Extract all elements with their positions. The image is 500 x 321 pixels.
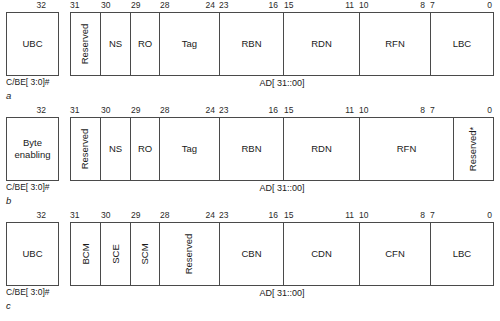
bitfield-rbn: RBN bbox=[220, 118, 284, 180]
cbe-signal-caption: C/BE[ 3:0]# bbox=[6, 77, 49, 88]
bit-tick: 31 bbox=[70, 0, 79, 11]
bitfield-label: RFN bbox=[397, 143, 417, 155]
bit-tick: 30 bbox=[101, 105, 110, 116]
bit-tick: 16 bbox=[269, 0, 278, 11]
cbe-byte-command-box: UBC bbox=[6, 222, 59, 286]
bit-tick-cbe-width: 32 bbox=[37, 105, 46, 116]
bitfield-label: Reserved bbox=[80, 24, 92, 65]
bitfield-label: CBN bbox=[241, 248, 261, 260]
bitfield-label: SCM bbox=[139, 243, 151, 264]
cbe-box-label: UBC bbox=[22, 38, 42, 50]
ad-bitfield-box: ReservedNSROTagRBNRDNRFNReserved* bbox=[70, 117, 494, 181]
pci-field-layout-diagram: 3231302928242316151110870UBCReservedNSRO… bbox=[0, 0, 500, 321]
bit-tick: 23 bbox=[219, 105, 228, 116]
bitfield-label: LBC bbox=[453, 248, 471, 260]
bitfield-label: RFN bbox=[385, 38, 405, 50]
ad-bitfield-box: BCMSCESCMReservedCBNCDNCFNLBC bbox=[70, 222, 494, 286]
bit-tick-cbe-width: 32 bbox=[37, 0, 46, 11]
bit-tick: 29 bbox=[131, 0, 140, 11]
bitfield-rfn: RFN bbox=[360, 13, 431, 75]
ad-signal-caption: AD[ 31::00] bbox=[70, 77, 494, 89]
bitfield-ns: NS bbox=[101, 118, 131, 180]
bitfield-rbn: RBN bbox=[220, 13, 284, 75]
bit-tick: 31 bbox=[70, 105, 79, 116]
field-layout-row-a: 3231302928242316151110870UBCReservedNSRO… bbox=[0, 0, 500, 107]
bit-tick: 7 bbox=[430, 0, 435, 11]
cbe-byte-command-box: Byteenabling bbox=[6, 117, 59, 181]
bit-tick: 11 bbox=[345, 105, 354, 116]
bit-tick: 8 bbox=[420, 210, 425, 221]
bit-tick: 24 bbox=[206, 105, 215, 116]
ad-signal-caption: AD[ 31::00] bbox=[70, 287, 494, 299]
bitfield-ro: RO bbox=[131, 13, 160, 75]
bit-tick: 23 bbox=[219, 210, 228, 221]
bitfield-ns: NS bbox=[101, 13, 131, 75]
bitfield-scm: SCM bbox=[131, 223, 160, 285]
bitfield-tag: Tag bbox=[160, 13, 220, 75]
bit-tick: 0 bbox=[487, 0, 492, 11]
bitfield-cdn: CDN bbox=[284, 223, 360, 285]
bit-tick: 8 bbox=[420, 0, 425, 11]
field-layout-row-b: 3231302928242316151110870ByteenablingRes… bbox=[0, 105, 500, 212]
bit-tick: 31 bbox=[70, 210, 79, 221]
bit-tick: 11 bbox=[345, 0, 354, 11]
bitfield-label: Reserved bbox=[183, 234, 195, 275]
subfigure-letter: b bbox=[6, 195, 11, 207]
bitfield-rfn: RFN bbox=[360, 118, 454, 180]
bitfield-label: RO bbox=[138, 143, 152, 155]
bit-tick: 29 bbox=[131, 105, 140, 116]
bit-tick-cbe-width: 32 bbox=[37, 210, 46, 221]
bitfield-reserved: Reserved* bbox=[454, 118, 493, 180]
bitfield-rdn: RDN bbox=[284, 118, 360, 180]
bitfield-label: Reserved bbox=[80, 129, 92, 170]
bitfield-rdn: RDN bbox=[284, 13, 360, 75]
bitfield-label: CDN bbox=[311, 248, 332, 260]
bitfield-label: RBN bbox=[241, 143, 261, 155]
bit-tick: 0 bbox=[487, 210, 492, 221]
bit-tick: 11 bbox=[345, 210, 354, 221]
bit-tick: 16 bbox=[269, 210, 278, 221]
ad-signal-caption: AD[ 31::00] bbox=[70, 182, 494, 194]
bit-tick: 7 bbox=[430, 105, 435, 116]
bit-tick: 10 bbox=[359, 210, 368, 221]
bit-tick: 8 bbox=[420, 105, 425, 116]
bitfield-lbc: LBC bbox=[431, 223, 493, 285]
bitfield-label: RBN bbox=[241, 38, 261, 50]
bit-tick: 28 bbox=[160, 0, 169, 11]
bit-tick: 0 bbox=[487, 105, 492, 116]
bitfield-label: NS bbox=[109, 143, 122, 155]
bitfield-label: Reserved* bbox=[468, 127, 480, 171]
bit-tick: 10 bbox=[359, 0, 368, 11]
bitfield-label: NS bbox=[109, 38, 122, 50]
bit-tick: 28 bbox=[160, 105, 169, 116]
bitfield-label: RDN bbox=[311, 143, 332, 155]
subfigure-letter: a bbox=[6, 90, 11, 102]
bit-tick: 30 bbox=[101, 210, 110, 221]
bit-tick: 16 bbox=[269, 105, 278, 116]
ad-bitfield-box: ReservedNSROTagRBNRDNRFNLBC bbox=[70, 12, 494, 76]
bitfield-sce: SCE bbox=[101, 223, 131, 285]
bitfield-label: BCM bbox=[80, 243, 92, 264]
bitfield-reserved: Reserved bbox=[160, 223, 220, 285]
bitfield-label: Tag bbox=[182, 38, 197, 50]
cbe-signal-caption: C/BE[ 3:0]# bbox=[6, 182, 49, 193]
cbe-box-label: Byteenabling bbox=[15, 137, 51, 161]
cbe-byte-command-box: UBC bbox=[6, 12, 59, 76]
bit-tick: 30 bbox=[101, 0, 110, 11]
bit-tick: 7 bbox=[430, 210, 435, 221]
bit-tick: 29 bbox=[131, 210, 140, 221]
bit-tick: 15 bbox=[284, 105, 293, 116]
bitfield-label: SCE bbox=[109, 244, 121, 264]
cbe-box-label: UBC bbox=[22, 248, 42, 260]
bitfield-reserved: Reserved bbox=[71, 118, 101, 180]
bitfield-label: Tag bbox=[182, 143, 197, 155]
bit-tick: 10 bbox=[359, 105, 368, 116]
bitfield-lbc: LBC bbox=[431, 13, 493, 75]
bitfield-label: LBC bbox=[453, 38, 471, 50]
bitfield-label: CFN bbox=[385, 248, 405, 260]
field-layout-row-c: 3231302928242316151110870UBCBCMSCESCMRes… bbox=[0, 210, 500, 317]
bitfield-bcm: BCM bbox=[71, 223, 101, 285]
bit-tick: 23 bbox=[219, 0, 228, 11]
bitfield-reserved: Reserved bbox=[71, 13, 101, 75]
bitfield-cbn: CBN bbox=[220, 223, 284, 285]
